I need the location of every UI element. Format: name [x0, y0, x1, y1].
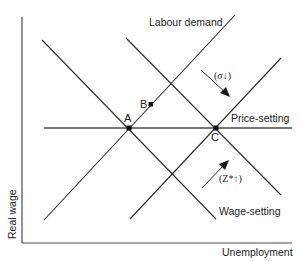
labour-demand-curve-left [44, 15, 235, 220]
price-setting-label: Price-setting [231, 112, 290, 124]
y-axis-label: Real wage [6, 189, 18, 239]
sigma-shift-annotation: (σ↓) [214, 70, 231, 82]
labour-market-diagram: A B C Labour demand Price-setting Wage-s… [0, 0, 302, 261]
labour-demand-label: Labour demand [149, 16, 223, 28]
x-axis-label: Unemployment [222, 246, 293, 258]
point-c-marker [214, 126, 219, 131]
z-shift-annotation: (Z*↑) [219, 173, 242, 185]
point-a-label: A [124, 112, 132, 124]
labour-demand-curve-right [130, 58, 281, 219]
point-a-marker [127, 126, 132, 131]
point-c-label: C [211, 131, 219, 143]
point-b-marker [149, 102, 154, 107]
wage-setting-label: Wage-setting [219, 205, 281, 217]
point-b-label: B [140, 98, 147, 110]
